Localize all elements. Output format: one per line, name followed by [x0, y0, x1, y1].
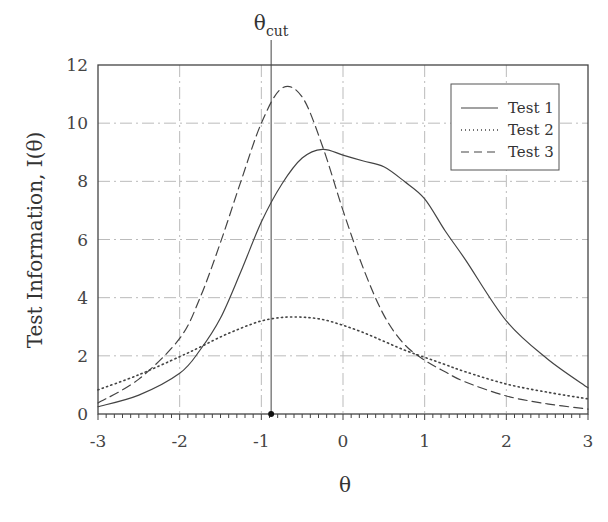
y-tick-label: 2	[77, 346, 88, 366]
information-chart: 024681012 -3-2-10123 θcut Test Informati…	[0, 0, 608, 522]
y-tick-label: 8	[77, 171, 88, 191]
y-tick-label: 10	[66, 113, 88, 133]
legend-label-test-2: Test 2	[508, 121, 554, 139]
legend: Test 1 Test 2 Test 3	[451, 84, 559, 170]
legend-label-test-3: Test 3	[508, 143, 554, 161]
x-tick-label: -1	[253, 431, 270, 451]
x-tick-label: -2	[171, 431, 188, 451]
x-tick-label: 3	[583, 431, 594, 451]
y-axis-title: Test Information, I(θ)	[23, 132, 47, 349]
legend-label-test-1: Test 1	[508, 99, 554, 117]
theta-cut-marker	[268, 411, 274, 417]
y-tick-labels: 024681012	[66, 55, 88, 424]
theta-cut-symbol: θ	[254, 11, 266, 35]
x-tick-label: 0	[338, 431, 349, 451]
y-tick-label: 6	[77, 230, 88, 250]
x-tick-label: -3	[90, 431, 107, 451]
y-tick-label: 12	[66, 55, 88, 75]
x-tick-label: 2	[501, 431, 512, 451]
x-tick-labels: -3-2-10123	[90, 431, 594, 451]
x-minor-ticks	[98, 414, 588, 420]
y-tick-label: 0	[77, 404, 88, 424]
theta-cut-subscript: cut	[266, 23, 289, 39]
y-tick-label: 4	[77, 288, 88, 308]
x-tick-label: 1	[419, 431, 430, 451]
x-axis-title: θ	[339, 473, 351, 497]
theta-cut-label: θcut	[254, 11, 289, 39]
